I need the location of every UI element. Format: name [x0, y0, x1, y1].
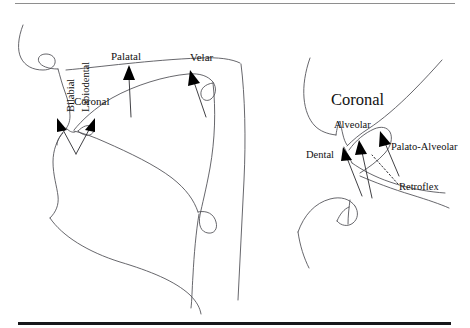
label-palatal: Palatal [111, 51, 141, 62]
label-retroflex: Retroflex [399, 182, 439, 193]
label-dental: Dental [306, 150, 334, 161]
label-velar: Velar [190, 52, 213, 63]
figure-artwork [0, 0, 470, 328]
label-coronal-heading: Coronal [331, 92, 384, 109]
left-panel-outlines [19, 25, 245, 314]
label-alveolar: Alveolar [334, 120, 371, 131]
label-coronal-left: Coronal [74, 96, 109, 107]
label-palato-alveolar: Palato-Alveolar [391, 142, 457, 153]
articulation-figure: Bilabial Labiodental Coronal Palatal Vel… [0, 0, 470, 328]
